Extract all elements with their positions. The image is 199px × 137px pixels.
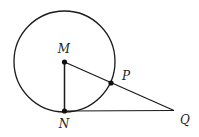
label-m: M <box>57 42 71 56</box>
geometry-diagram: M N P Q <box>0 0 199 137</box>
segment-mq <box>65 62 175 111</box>
point-p-dot <box>108 80 113 85</box>
label-p: P <box>121 69 131 83</box>
point-n-dot <box>62 108 67 113</box>
label-q: Q <box>180 113 190 127</box>
label-n: N <box>58 117 70 131</box>
segment-nq <box>65 111 175 112</box>
point-m-dot <box>62 59 67 64</box>
